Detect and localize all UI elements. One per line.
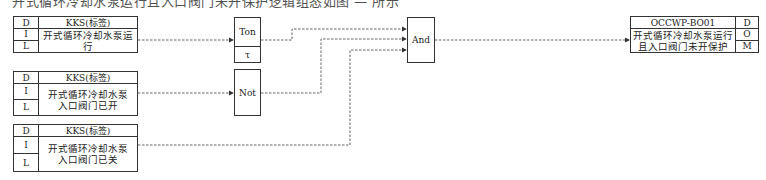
input-block-pump-running: D KKS(标签) I 开式循环冷却水泵运行 L [13, 16, 138, 53]
input-block-valve-open: D KKS(标签) I 开式循环冷却水泵 入口阀门已开 L [13, 71, 138, 116]
ton-delay-param: τ [235, 47, 260, 62]
kks-tag: KKS(标签) [39, 17, 137, 29]
l-cell: L [14, 41, 39, 53]
signal-description: 开式循环冷却水泵 入口阀门已开 [39, 84, 137, 115]
d-cell: D [736, 17, 758, 29]
desc-line-2: 入口阀门已关 [48, 154, 128, 165]
i-cell: I [14, 137, 39, 154]
desc-line-1: 开式循环冷却水泵运行 [43, 30, 133, 52]
desc-line-2: 且入口阀门未开保护 [633, 41, 733, 52]
kks-tag: KKS(标签) [39, 125, 137, 137]
input-block-valve-closed: D KKS(标签) I 开式循环冷却水泵 入口阀门已关 L [13, 124, 138, 172]
and-label: And [412, 35, 430, 45]
o-cell: O [736, 29, 758, 41]
i-cell: I [14, 84, 39, 100]
kks-tag: KKS(标签) [39, 72, 137, 84]
desc-line-2: 入口阀门已开 [48, 100, 128, 111]
d-cell: D [14, 72, 39, 84]
l-cell: L [14, 154, 39, 171]
desc-line-1: 开式循环冷却水泵 [48, 89, 128, 100]
output-description: 开式循环冷却水泵运行 且入口阀门未开保护 [631, 29, 736, 52]
not-gate-block: Not [234, 69, 261, 116]
desc-line-1: 开式循环冷却水泵 [48, 143, 128, 154]
wire-kks3-to-and [138, 50, 406, 145]
ton-label: Ton [235, 18, 260, 47]
output-kks-tag: OCCWP-BO01 [631, 17, 736, 29]
desc-line-1: 开式循环冷却水泵运行 [633, 30, 733, 41]
signal-description: 开式循环冷却水泵 入口阀门已关 [39, 137, 137, 171]
output-block-protection: OCCWP-BO01 D 开式循环冷却水泵运行 且入口阀门未开保护 O M [630, 16, 759, 53]
m-cell: M [736, 41, 758, 53]
wire-ton-to-and [261, 29, 406, 40]
ton-timer-block: Ton τ [234, 17, 261, 63]
d-cell: D [14, 125, 39, 137]
signal-description: 开式循环冷却水泵运行 [39, 29, 137, 52]
and-gate-block: And [407, 17, 435, 63]
i-cell: I [14, 29, 39, 41]
not-label: Not [239, 88, 256, 98]
d-cell: D [14, 17, 39, 29]
l-cell: L [14, 100, 39, 116]
wire-not-to-and [261, 39, 406, 93]
